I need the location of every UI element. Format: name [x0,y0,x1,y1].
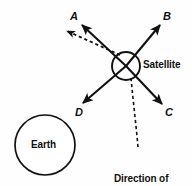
vector-label-d: D [75,106,83,118]
vector-label-c: C [165,106,173,118]
vector-label-b: B [163,10,171,22]
vector-label-a: A [70,10,78,22]
direction-caption-line-1: Direction of [114,173,168,184]
direction-of-movement-caption: Direction of movement [114,151,168,186]
satellite-label: Satellite [143,59,180,70]
satellite-diagram: A B C D Satellite Earth Direction of mov… [0,0,192,186]
earth-label: Earth [31,139,56,150]
vector-d-line [83,66,126,103]
direction-caption-leader-line [131,78,138,147]
vector-a-line [82,25,126,66]
